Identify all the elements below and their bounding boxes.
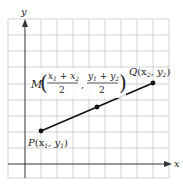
point-q xyxy=(151,81,156,86)
midpoint-diagram: x y P(x1, y1) Q(x2, y2) M ( x1 + x2 2 , … xyxy=(0,0,183,184)
svg-text:,: , xyxy=(81,79,84,90)
svg-text:): ) xyxy=(119,71,127,95)
m-fraction-2-numerator: y1 + y2 xyxy=(87,71,119,82)
m-fraction-2-denominator: 2 xyxy=(99,85,105,95)
m-fraction-1-denominator: 2 xyxy=(59,85,65,95)
point-m xyxy=(95,105,100,110)
x-axis-arrow-icon xyxy=(164,161,172,167)
x-axis-label: x xyxy=(174,158,180,169)
svg-text:(: ( xyxy=(40,71,48,95)
point-p xyxy=(39,129,44,134)
grid xyxy=(8,19,169,178)
point-q-label: Q(x2, y2) xyxy=(129,66,170,78)
point-m-label: M ( x1 + x2 2 , y1 + y2 2 ) xyxy=(30,68,127,98)
point-p-label: P(x1, y1) xyxy=(27,137,68,149)
y-axis-arrow-icon xyxy=(22,19,28,27)
y-axis-label: y xyxy=(20,6,27,17)
axes xyxy=(8,24,168,178)
m-fraction-1-numerator: x1 + x2 xyxy=(48,71,79,82)
